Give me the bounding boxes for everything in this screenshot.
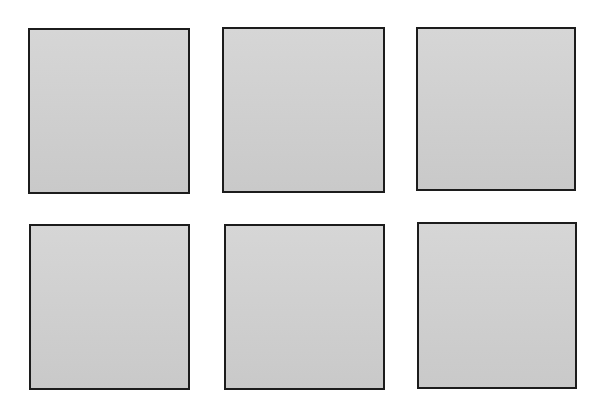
panel-r1-c2: [222, 27, 385, 193]
panel-r2-c3: [417, 222, 577, 389]
panel-r2-c1: [29, 224, 190, 390]
panel-r2-c2: [224, 224, 385, 390]
panel-r1-c1: [28, 28, 190, 194]
panel-r1-c3: [416, 27, 576, 191]
